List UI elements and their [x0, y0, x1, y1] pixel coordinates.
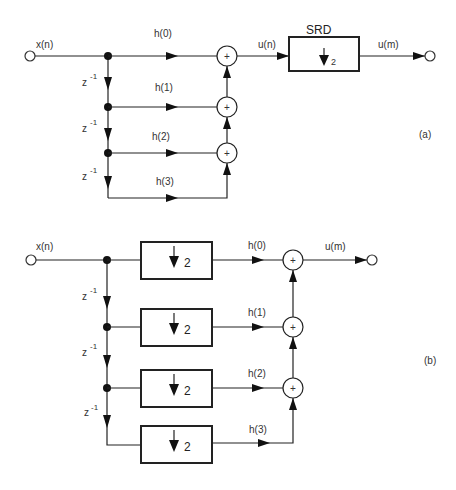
svg-text:+: +: [224, 102, 230, 113]
adder-1: +: [217, 97, 237, 117]
delay-label: z: [82, 171, 87, 182]
diagram-a: x(n) z -1 z -1 z -1 h(0) h(1) h(2) h(3): [25, 23, 435, 202]
srd-title: SRD: [306, 23, 332, 37]
diagram-b: x(n) z -1 z -1 z -1 2 2: [26, 240, 436, 463]
tap-arrow-icon: [252, 256, 264, 264]
output-terminal-icon: [425, 51, 435, 61]
tap-arrow-icon: [252, 384, 264, 392]
output-arrow-icon: [413, 52, 425, 60]
svg-text:+: +: [224, 51, 230, 62]
tap-arrow-icon: [166, 52, 178, 60]
delay-label: z: [82, 291, 87, 302]
adder-arrow-icon: [223, 66, 231, 78]
downsampler-1: 2: [141, 309, 212, 346]
polyphase-decimation-diagram: x(n) z -1 z -1 z -1 h(0) h(1) h(2) h(3): [0, 0, 456, 490]
delay-label: z: [84, 407, 89, 418]
tap-arrow-icon: [166, 149, 178, 157]
adder-1: +: [283, 317, 303, 337]
input-label: x(n): [36, 241, 53, 252]
delay-exponent: -1: [91, 403, 99, 412]
panel-label-b: (b): [424, 355, 436, 366]
panel-label-a: (a): [419, 129, 431, 140]
delay-arrow-icon: [103, 415, 111, 428]
adder-0: +: [283, 250, 303, 270]
svg-text:2: 2: [184, 323, 191, 337]
downsampler-3: 2: [141, 426, 212, 463]
adder-2: +: [283, 378, 303, 398]
downsampler-0: 2: [141, 242, 212, 279]
tap-arrow-icon: [252, 323, 264, 331]
adder-arrow-icon: [223, 117, 231, 129]
svg-text:2: 2: [184, 256, 191, 270]
un-arrow-icon: [277, 52, 289, 60]
tap-line-3: [212, 398, 293, 443]
delay-label: z: [82, 123, 87, 134]
tap-label-3: h(3): [249, 424, 267, 435]
output-arrow-icon: [355, 256, 367, 264]
delay-arrow-icon: [103, 355, 111, 368]
srd-factor: 2: [331, 57, 336, 67]
input-label: x(n): [36, 39, 53, 50]
svg-text:+: +: [290, 383, 296, 394]
adder-arrow-icon: [289, 398, 297, 410]
delay-exponent: -1: [90, 286, 98, 295]
delay-arrow-icon: [104, 128, 112, 141]
tap-label-3: h(3): [156, 176, 174, 187]
output-label: u(m): [325, 241, 346, 252]
adder-0: +: [217, 46, 237, 66]
delay-line: [107, 260, 141, 445]
delay-exponent: -1: [90, 166, 98, 175]
svg-text:+: +: [224, 148, 230, 159]
svg-text:+: +: [290, 322, 296, 333]
output-label: u(m): [378, 39, 399, 50]
tap-label-1: h(1): [155, 82, 173, 93]
svg-text:2: 2: [184, 384, 191, 398]
tap-label-2: h(2): [248, 368, 266, 379]
delay-label: z: [82, 347, 87, 358]
delay-arrow-icon: [103, 296, 111, 309]
tap-label-0: h(0): [248, 240, 266, 251]
delay-arrow-icon: [104, 77, 112, 90]
delay-exponent: -1: [90, 342, 98, 351]
input-terminal-icon: [25, 51, 35, 61]
input-terminal-icon: [26, 255, 36, 265]
un-label: u(n): [258, 39, 276, 50]
adder-arrow-icon: [223, 163, 231, 175]
tap-arrow-icon: [166, 103, 178, 111]
adder-2: +: [217, 143, 237, 163]
adder-arrow-icon: [289, 270, 297, 282]
delay-label: z: [82, 77, 87, 88]
tap-label-2: h(2): [152, 131, 170, 142]
delay-exponent: -1: [90, 118, 98, 127]
tap-arrow-icon: [258, 439, 270, 447]
svg-text:2: 2: [184, 440, 191, 454]
adder-arrow-icon: [289, 337, 297, 349]
svg-text:+: +: [290, 255, 296, 266]
downsampler-2: 2: [141, 370, 212, 407]
tap-label-1: h(1): [248, 307, 266, 318]
tap-label-0: h(0): [154, 28, 172, 39]
delay-arrow-icon: [104, 176, 112, 189]
tap-arrow-icon: [166, 194, 178, 202]
output-terminal-icon: [367, 255, 377, 265]
delay-exponent: -1: [90, 72, 98, 81]
